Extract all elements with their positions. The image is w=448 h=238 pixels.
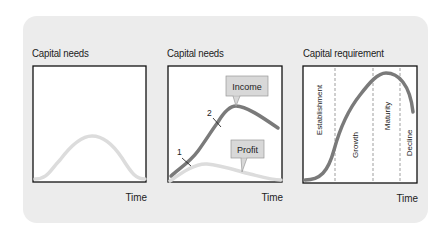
phase-decline: Decline (405, 129, 414, 156)
phase-establishment: Establishment (315, 84, 324, 135)
phase-growth: Growth (351, 132, 360, 158)
panel-3-x-label: Time (396, 192, 418, 204)
panel-3-chart: Establishment Growth Maturity Decline (0, 0, 448, 238)
phase-maturity: Maturity (383, 102, 392, 130)
